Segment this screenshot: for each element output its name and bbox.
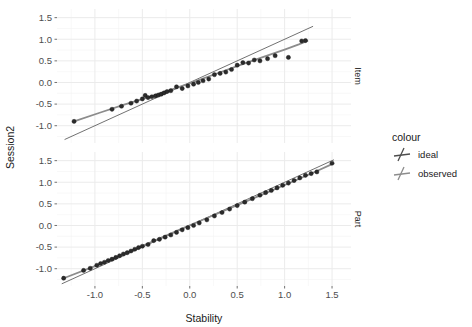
data-point xyxy=(224,70,228,74)
data-point xyxy=(286,55,290,59)
data-point xyxy=(157,237,161,241)
y-tick-label: -1.0 xyxy=(36,120,52,131)
legend-label-observed: observed xyxy=(418,168,457,179)
data-point xyxy=(281,183,285,187)
y-tick-label: 1.5 xyxy=(39,12,52,23)
data-point xyxy=(169,233,173,237)
y-tick-label: 0.0 xyxy=(39,77,52,88)
data-point xyxy=(228,207,232,211)
x-axis: -1.0-0.50.00.51.01.5 xyxy=(87,286,339,300)
data-point xyxy=(165,89,169,93)
data-point xyxy=(252,58,256,62)
data-point xyxy=(129,101,133,105)
x-tick-label: -1.0 xyxy=(87,289,103,300)
data-point xyxy=(117,254,121,258)
data-point xyxy=(152,239,156,243)
legend-label-ideal: ideal xyxy=(418,149,438,160)
strip-label-part: Part xyxy=(353,211,363,228)
data-point xyxy=(81,268,85,272)
x-tick-label: 1.0 xyxy=(278,289,291,300)
data-point xyxy=(315,170,319,174)
data-point xyxy=(146,96,150,100)
data-point xyxy=(140,97,144,101)
data-point xyxy=(201,79,205,83)
data-point xyxy=(169,89,173,93)
data-point xyxy=(135,99,139,103)
data-point xyxy=(241,61,245,65)
data-point xyxy=(212,73,216,77)
data-point xyxy=(114,255,118,259)
data-point xyxy=(174,230,178,234)
data-point xyxy=(121,252,125,256)
x-tick-label: -0.5 xyxy=(134,289,150,300)
legend-item-observed[interactable]: observed xyxy=(392,165,457,183)
x-tick-label: 1.5 xyxy=(325,289,338,300)
data-point xyxy=(218,71,222,75)
data-point xyxy=(229,67,233,71)
data-point xyxy=(163,235,167,239)
data-point xyxy=(129,249,133,253)
data-point xyxy=(246,61,250,65)
data-point xyxy=(106,258,110,262)
data-point xyxy=(180,228,184,232)
data-point xyxy=(205,218,209,222)
y-tick-label: 1.0 xyxy=(39,34,52,45)
data-point xyxy=(88,266,92,270)
data-point xyxy=(243,200,247,204)
data-point xyxy=(174,85,178,89)
data-point xyxy=(125,251,129,255)
data-point xyxy=(235,204,239,208)
data-point xyxy=(235,63,239,67)
data-point xyxy=(191,223,195,227)
x-tick-label: 0.5 xyxy=(231,289,244,300)
data-point xyxy=(250,197,254,201)
y-axis-title: Session2 xyxy=(4,126,16,169)
y-tick-label: 0.5 xyxy=(39,198,52,209)
data-point xyxy=(298,176,302,180)
x-axis-title: Stability xyxy=(186,312,224,324)
data-point xyxy=(264,191,268,195)
y-tick-label: -1.0 xyxy=(36,263,52,274)
data-point xyxy=(303,173,307,177)
y-tick-label: -0.5 xyxy=(36,98,52,109)
data-point xyxy=(180,86,184,90)
data-point xyxy=(136,245,140,249)
data-point xyxy=(99,261,103,265)
data-point xyxy=(72,119,76,123)
scatter-chart: -1.0-0.50.00.51.01.5Item-1.0-0.50.00.51.… xyxy=(0,0,472,327)
data-point xyxy=(191,82,195,86)
y-tick-label: 1.0 xyxy=(39,177,52,188)
data-point xyxy=(258,193,262,197)
x-tick-label: 0.0 xyxy=(183,289,196,300)
facet-panel-item: -1.0-0.50.00.51.01.5Item xyxy=(36,9,364,143)
data-point xyxy=(275,186,279,190)
data-point xyxy=(62,276,66,280)
data-point xyxy=(95,263,99,267)
y-tick-label: 0.5 xyxy=(39,55,52,66)
data-point xyxy=(269,188,273,192)
data-point xyxy=(258,59,262,63)
data-point xyxy=(303,38,307,42)
data-point xyxy=(102,260,106,264)
data-point xyxy=(220,210,224,214)
legend-item-ideal[interactable]: ideal xyxy=(392,146,438,164)
data-point xyxy=(140,244,144,248)
legend: colouridealobserved xyxy=(392,131,457,183)
data-point xyxy=(146,242,150,246)
data-point xyxy=(292,178,296,182)
facet-panel-part: -1.0-0.50.00.51.01.5Part xyxy=(36,152,364,286)
data-point xyxy=(286,181,290,185)
data-point xyxy=(133,247,137,251)
y-tick-label: -0.5 xyxy=(36,241,52,252)
y-tick-label: 1.5 xyxy=(39,155,52,166)
data-point xyxy=(212,214,216,218)
data-point xyxy=(110,107,114,111)
data-point xyxy=(273,54,277,58)
y-tick-label: 0.0 xyxy=(39,220,52,231)
data-point xyxy=(196,80,200,84)
data-point xyxy=(265,57,269,61)
data-point xyxy=(186,84,190,88)
data-point xyxy=(186,226,190,230)
strip-label-item: Item xyxy=(353,67,363,85)
data-point xyxy=(309,172,313,176)
